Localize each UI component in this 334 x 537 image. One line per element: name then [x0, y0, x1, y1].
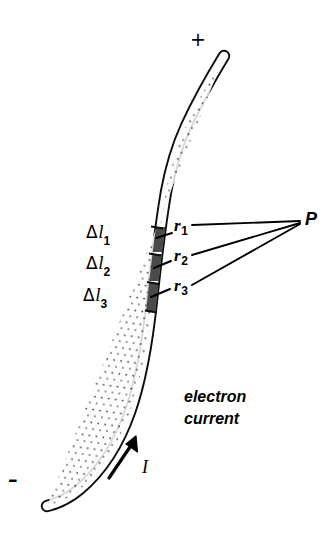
- delta-l-3-subscript: 3: [100, 297, 107, 311]
- delta-symbol-1: Δ: [86, 222, 98, 242]
- delta-l-1-label: Δl1: [86, 222, 110, 244]
- delta-symbol-3: Δ: [83, 285, 95, 305]
- delta-symbol-2: Δ: [86, 253, 98, 273]
- delta-l-1-subscript: 1: [103, 234, 110, 248]
- figure-canvas: + – Δl1 Δl2 Δl3 r1 r2 r3 P electron curr…: [0, 0, 334, 537]
- field-point-p-label: P: [305, 210, 317, 228]
- delta-l-2-subscript: 2: [103, 265, 110, 279]
- negative-terminal-label: –: [8, 470, 18, 489]
- caption-line-electron: electron: [184, 386, 246, 408]
- r-symbol-2: r: [174, 246, 181, 265]
- wire-diagram-svg: [0, 0, 334, 537]
- ray-r2-to-p: [192, 223, 300, 255]
- distance-r1-label: r1: [174, 217, 187, 234]
- wire-group: [20, 30, 250, 530]
- distance-r2-label: r2: [174, 247, 187, 264]
- distance-rays-to-p: [192, 221, 300, 285]
- caption-line-current: current: [184, 408, 246, 430]
- ray-r1-to-p: [192, 221, 300, 225]
- delta-l-2-label: Δl2: [86, 253, 110, 275]
- wire-stipple-texture: [20, 30, 250, 530]
- distance-r3-label: r3: [174, 277, 187, 294]
- r1-subscript: 1: [181, 224, 188, 238]
- r2-subscript: 2: [181, 254, 188, 268]
- positive-terminal-label: +: [190, 30, 206, 49]
- r-symbol-3: r: [174, 276, 181, 295]
- current-symbol-label: I: [142, 458, 148, 476]
- delta-l-3-label: Δl3: [83, 285, 107, 307]
- r3-subscript: 3: [181, 284, 188, 298]
- ray-r3-to-p: [192, 224, 300, 285]
- electron-current-caption: electron current: [184, 386, 246, 429]
- r-symbol-1: r: [174, 216, 181, 235]
